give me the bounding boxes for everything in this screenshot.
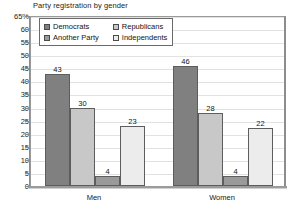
- bar-chart: Party registration by gender 65%60555045…: [0, 0, 292, 212]
- bar-value-label: 28: [206, 104, 214, 113]
- x-category-label: Men: [87, 193, 102, 202]
- bar: [95, 176, 120, 186]
- legend-swatch-icon: [113, 35, 119, 41]
- chart-legend: DemocratsRepublicansAnother PartyIndepen…: [39, 18, 173, 46]
- bar-value-label: 43: [53, 65, 61, 74]
- bar-value-label: 4: [105, 167, 109, 176]
- gridline: [31, 56, 284, 57]
- x-axis-line-shadow: [29, 188, 287, 189]
- x-category-label: Women: [209, 193, 235, 202]
- legend-swatch-icon: [44, 24, 50, 30]
- bar: [70, 108, 95, 186]
- bar-value-label: 4: [233, 167, 237, 176]
- bar: [248, 128, 273, 186]
- legend-label: Independents: [122, 33, 167, 42]
- bar-value-label: 23: [128, 117, 136, 126]
- legend-label: Democrats: [53, 22, 89, 31]
- legend-item[interactable]: Independents: [113, 33, 167, 42]
- gridline: [31, 69, 284, 70]
- legend-swatch-icon: [44, 35, 50, 41]
- bar: [198, 113, 223, 186]
- legend-item[interactable]: Another Party: [44, 33, 99, 42]
- y-axis-labels: 65%605550454035302520151050: [0, 0, 29, 212]
- bar-value-label: 46: [181, 57, 189, 66]
- legend-item[interactable]: Democrats: [44, 22, 99, 31]
- legend-item[interactable]: Republicans: [113, 22, 167, 31]
- bar: [120, 126, 145, 186]
- bar: [223, 176, 248, 186]
- legend-label: Another Party: [53, 33, 99, 42]
- bar-value-label: 22: [256, 119, 264, 128]
- legend-label: Republicans: [122, 22, 163, 31]
- bar: [173, 66, 198, 186]
- bar-value-label: 30: [78, 99, 86, 108]
- legend-swatch-icon: [113, 24, 119, 30]
- chart-title: Party registration by gender: [33, 1, 128, 10]
- bar: [45, 74, 70, 186]
